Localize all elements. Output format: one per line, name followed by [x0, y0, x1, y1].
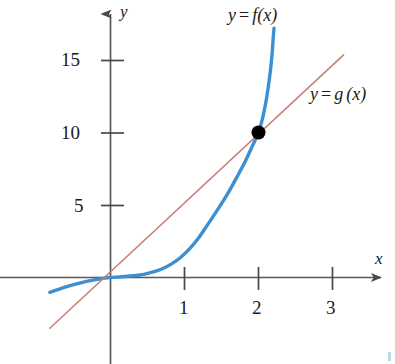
series-layer	[50, 28, 344, 328]
y-axis-label: y	[120, 3, 128, 20]
function-graph-figure: 15 10 5 1 2 3 y x y=f(x) y=g(x)	[0, 0, 395, 364]
marker-layer	[252, 126, 266, 140]
curve-label-g-eq: =	[321, 84, 331, 104]
curve-label-f-y: y	[228, 5, 236, 25]
intersection-point	[252, 126, 266, 140]
curve-label-g-y: y	[310, 84, 318, 104]
plot-canvas	[0, 0, 395, 364]
corner-artifact	[388, 352, 391, 361]
x-tick-label-1: 1	[179, 298, 189, 317]
x-tick-label-2: 2	[252, 298, 262, 317]
curve-label-g-arg: (x)	[346, 84, 366, 104]
y-tick-label-5: 5	[74, 196, 84, 215]
curve-label-f-eq: =	[239, 5, 249, 25]
y-tick-label-10: 10	[61, 123, 80, 142]
x-tick-label-3: 3	[326, 298, 336, 317]
curve-label-g: y=g(x)	[310, 85, 366, 103]
curve-label-f: y=f(x)	[228, 6, 277, 24]
y-tick-label-15: 15	[61, 50, 80, 69]
series-g-line	[50, 55, 344, 328]
x-axis-label: x	[375, 250, 383, 267]
curve-label-f-arg: (x)	[257, 5, 277, 25]
curve-label-g-fn: g	[334, 84, 343, 104]
series-f-curve	[50, 28, 274, 292]
